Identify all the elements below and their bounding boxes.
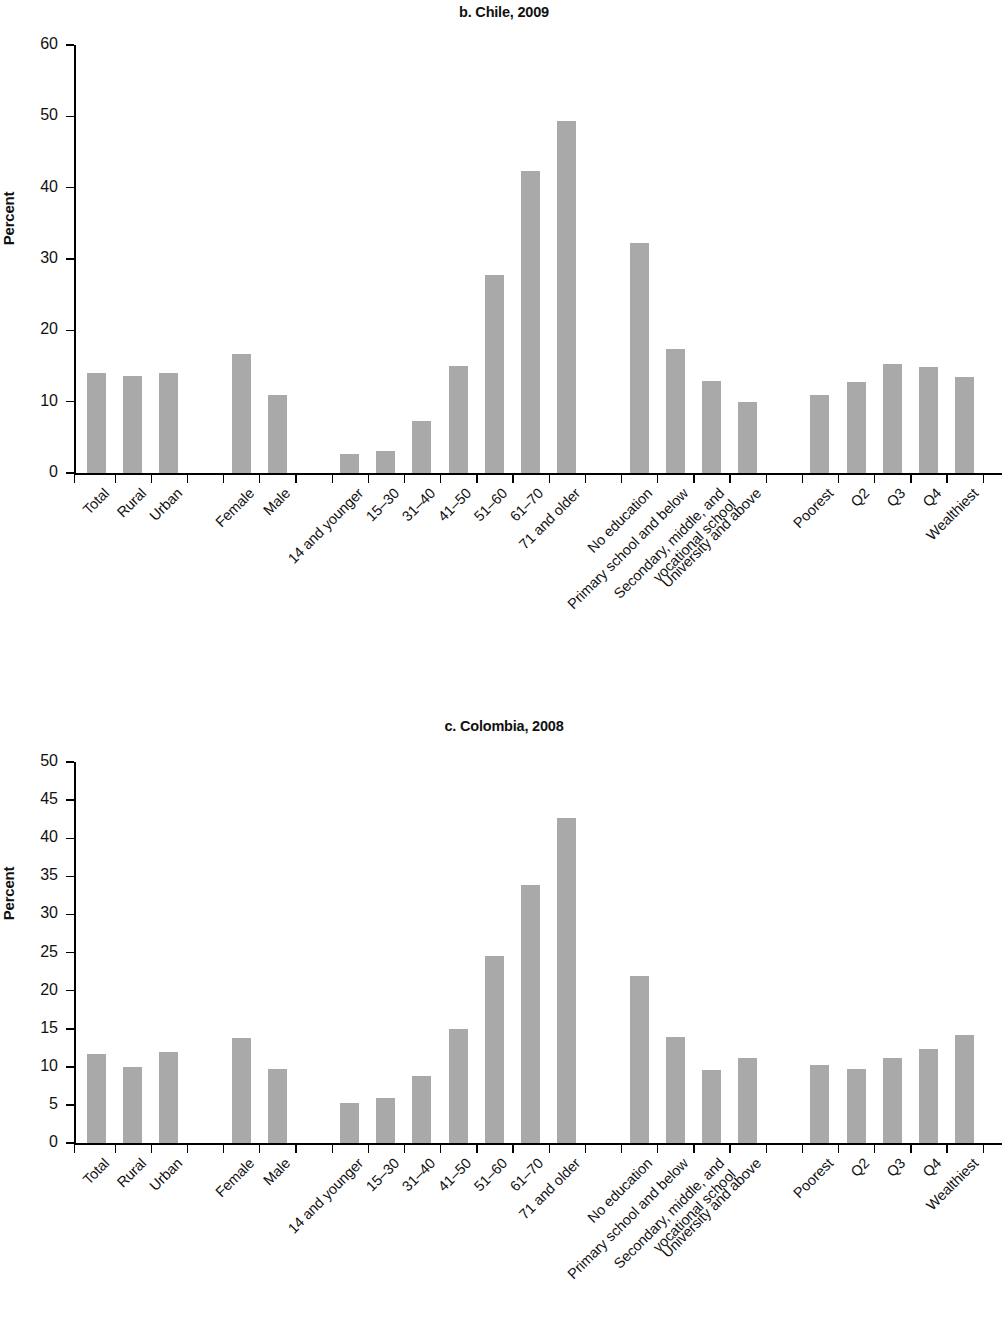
x-axis-tick-mark (295, 474, 296, 483)
x-axis-tick-label: Poorest (790, 485, 836, 531)
x-axis-tick-label: 31–40 (399, 1155, 438, 1194)
x-axis-tick-mark (874, 1144, 875, 1153)
y-axis-tick-label: 45 (4, 790, 58, 808)
bar (557, 121, 576, 473)
y-axis-tick-mark (66, 952, 74, 954)
x-axis-tick-label: Rural (113, 485, 148, 520)
y-axis-tick-label: 15 (4, 1019, 58, 1037)
bar (123, 1067, 142, 1143)
x-axis-tick-label: 15–30 (363, 1155, 402, 1194)
x-axis-tick-label: Male (260, 1155, 293, 1188)
y-axis-tick-mark (66, 914, 74, 916)
bar (810, 395, 829, 473)
bar (666, 349, 685, 473)
bar (376, 1098, 395, 1143)
bar (412, 421, 431, 473)
x-axis-tick-mark (946, 1144, 947, 1153)
x-axis-tick-label: Total (80, 1155, 113, 1188)
x-axis-tick-label: 31–40 (399, 485, 438, 524)
x-axis-tick-mark (512, 474, 513, 483)
x-axis-tick-label: Rural (113, 1155, 148, 1190)
x-axis-tick-label: Total (80, 485, 113, 518)
bar (412, 1076, 431, 1143)
x-axis-tick-mark (549, 474, 550, 483)
y-axis-tick-label: 60 (4, 35, 58, 53)
bar (521, 171, 540, 473)
y-axis-tick-label: 25 (4, 943, 58, 961)
y-axis-tick-mark (66, 761, 74, 763)
bar (340, 1103, 359, 1143)
x-axis-tick-label: Q4 (920, 485, 945, 510)
x-axis-tick-label: Q2 (847, 1155, 872, 1180)
y-axis-tick-label: 30 (4, 904, 58, 922)
x-axis-tick-mark (115, 474, 116, 483)
y-axis-tick-label: 10 (4, 392, 58, 410)
y-axis-tick-mark (66, 116, 74, 118)
y-axis-tick-label: 5 (4, 1095, 58, 1113)
x-axis-tick-mark (259, 474, 260, 483)
bar (847, 382, 866, 473)
x-axis-tick-mark (187, 1144, 188, 1153)
x-axis-tick-mark (874, 474, 875, 483)
bar (955, 1035, 974, 1143)
bar (738, 402, 757, 473)
x-axis-tick-mark (223, 1144, 224, 1153)
x-axis-tick-mark (693, 1144, 694, 1153)
x-axis-tick-label: 14 and younger (284, 485, 366, 567)
x-axis-tick-mark (838, 474, 839, 483)
x-axis-tick-mark (151, 474, 152, 483)
x-axis-tick-mark (802, 474, 803, 483)
y-axis-tick-label: 20 (4, 981, 58, 999)
y-axis-tick-mark (66, 799, 74, 801)
x-axis-tick-mark (368, 474, 369, 483)
bar (630, 976, 649, 1143)
y-axis-tick-mark (66, 258, 74, 260)
x-axis-tick-mark (657, 1144, 658, 1153)
x-axis-tick-mark (983, 474, 984, 483)
bar (123, 376, 142, 473)
x-axis-tick-mark (621, 474, 622, 483)
x-axis-tick-mark (549, 1144, 550, 1153)
y-axis-tick-mark (66, 401, 74, 403)
y-axis-tick-label: 10 (4, 1057, 58, 1075)
bar (159, 1052, 178, 1143)
x-axis-tick-mark (838, 1144, 839, 1153)
bar (521, 885, 540, 1143)
x-axis-tick-mark (295, 1144, 296, 1153)
bar (883, 1058, 902, 1143)
bar (919, 367, 938, 473)
x-axis-tick-label: 51–60 (471, 485, 510, 524)
bar (268, 395, 287, 473)
bar (87, 373, 106, 473)
x-axis-tick-mark (910, 474, 911, 483)
y-axis-tick-label: 40 (4, 828, 58, 846)
chart-panel-colombia: c. Colombia, 2008 Percent 05101520253035… (0, 700, 1008, 1339)
x-axis-tick-mark (910, 1144, 911, 1153)
y-axis-tick-label: 40 (4, 178, 58, 196)
x-axis-tick-mark (404, 1144, 405, 1153)
x-axis-tick-label: Poorest (790, 1155, 836, 1201)
y-axis-tick-mark (66, 838, 74, 840)
bar (883, 364, 902, 473)
bar (232, 1038, 251, 1143)
bar (449, 1029, 468, 1143)
bar (919, 1049, 938, 1143)
x-axis-tick-label: Urban (146, 485, 185, 524)
x-axis-tick-label: 41–50 (435, 1155, 474, 1194)
x-axis-tick-mark (585, 1144, 586, 1153)
x-axis-tick-mark (585, 474, 586, 483)
plot-area-colombia: 05101520253035404550TotalRuralUrbanFemal… (0, 700, 1008, 1339)
x-axis-tick-label: Q2 (847, 485, 872, 510)
x-axis-line (74, 473, 1002, 475)
x-axis-tick-mark (766, 1144, 767, 1153)
bar (666, 1037, 685, 1143)
x-axis-tick-label: Female (212, 485, 257, 530)
y-axis-tick-mark (66, 1028, 74, 1030)
y-axis-tick-mark (66, 44, 74, 46)
x-axis-tick-mark (512, 1144, 513, 1153)
x-axis-tick-mark (766, 474, 767, 483)
x-axis-tick-mark (332, 1144, 333, 1153)
x-axis-tick-mark (151, 1144, 152, 1153)
x-axis-tick-mark (259, 1144, 260, 1153)
bar (268, 1069, 287, 1143)
